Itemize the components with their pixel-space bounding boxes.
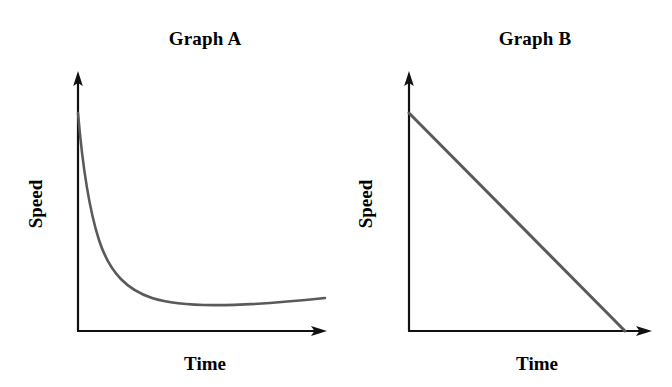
graph-a-decay-curve [78,113,325,305]
graph-b-panel: Graph B Speed Time [336,0,672,387]
speed-time-graph-figure: Graph A Speed Time Graph B Speed Time [0,0,672,387]
graph-b-plot [336,0,672,387]
graph-a-plot [0,0,336,387]
graph-a-panel: Graph A Speed Time [0,0,336,387]
graph-b-linear-line [409,113,625,331]
